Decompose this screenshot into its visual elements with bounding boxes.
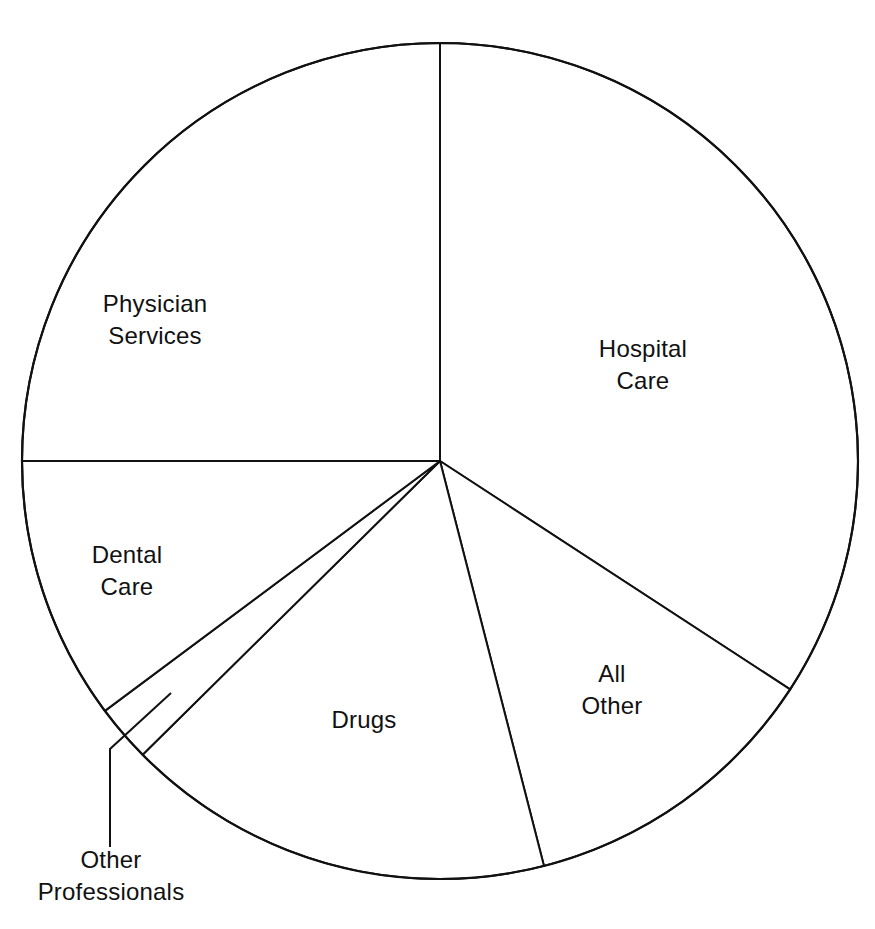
label-hospital-line2: Care bbox=[599, 365, 687, 397]
label-all-other-line1: All bbox=[581, 658, 642, 690]
label-hospital-line1: Hospital bbox=[599, 333, 687, 365]
label-drugs: Drugs bbox=[331, 704, 396, 736]
pie-slice-physician-services bbox=[22, 43, 440, 461]
label-dental-line1: Dental bbox=[92, 539, 163, 571]
label-dental-line2: Care bbox=[92, 571, 163, 603]
label-other-prof-line2: Professionals bbox=[38, 876, 185, 908]
label-drugs-line1: Drugs bbox=[331, 704, 396, 736]
label-dental-care: Dental Care bbox=[92, 539, 163, 603]
label-all-other: All Other bbox=[581, 658, 642, 722]
label-physician-services: Physician Services bbox=[103, 288, 208, 352]
label-all-other-line2: Other bbox=[581, 690, 642, 722]
pie-slices bbox=[22, 43, 858, 879]
pie-chart bbox=[0, 0, 875, 929]
label-physician-line2: Services bbox=[103, 320, 208, 352]
label-physician-line1: Physician bbox=[103, 288, 208, 320]
label-hospital-care: Hospital Care bbox=[599, 333, 687, 397]
label-other-professionals: Other Professionals bbox=[38, 844, 185, 908]
label-other-prof-line1: Other bbox=[38, 844, 185, 876]
